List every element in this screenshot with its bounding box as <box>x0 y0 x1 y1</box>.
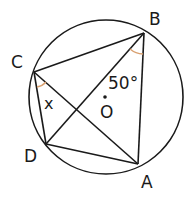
angle-arc-c <box>37 82 46 87</box>
label-c: C <box>11 52 23 72</box>
label-b: B <box>149 9 161 29</box>
angle-arc-b <box>130 49 143 54</box>
angle-label-50: 50° <box>108 73 138 93</box>
segment-ba <box>138 33 144 164</box>
geometry-diagram: B C D A O 50° x <box>0 0 192 198</box>
center-dot <box>103 95 107 99</box>
label-o: O <box>100 102 113 122</box>
segment-da <box>46 144 138 164</box>
label-d: D <box>24 146 37 166</box>
angle-label-x: x <box>44 94 53 113</box>
label-a: A <box>141 172 153 192</box>
